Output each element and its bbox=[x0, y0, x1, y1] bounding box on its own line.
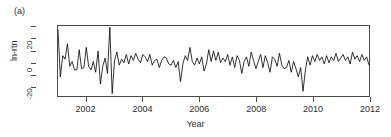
x-tick-mark bbox=[370, 97, 371, 102]
x-tick-mark bbox=[199, 97, 200, 102]
y-tick-label: -20 bbox=[24, 87, 36, 101]
y-tick-mark bbox=[31, 26, 36, 27]
x-tick-mark bbox=[313, 97, 314, 102]
x-tick-label: 2012 bbox=[360, 104, 380, 114]
y-axis-title: ln-rtn bbox=[9, 40, 19, 61]
x-axis-title: Year bbox=[0, 119, 391, 129]
x-tick-mark bbox=[256, 97, 257, 102]
y-axis: ln-rtn -20020 bbox=[0, 0, 57, 137]
x-tick-label: 2006 bbox=[189, 104, 209, 114]
plot-area bbox=[57, 25, 370, 97]
x-tick-mark bbox=[142, 97, 143, 102]
series-line bbox=[58, 26, 369, 96]
x-tick-label: 2002 bbox=[75, 104, 95, 114]
x-tick-mark bbox=[86, 97, 87, 102]
time-series-figure: (a) ln-rtn -20020 2002200420062008201020… bbox=[0, 0, 391, 137]
x-tick-label: 2004 bbox=[132, 104, 152, 114]
x-tick-label: 2010 bbox=[303, 104, 323, 114]
x-tick-label: 2008 bbox=[246, 104, 266, 114]
y-tick-label: 20 bbox=[24, 38, 36, 52]
y-tick-label: 0 bbox=[24, 63, 36, 77]
